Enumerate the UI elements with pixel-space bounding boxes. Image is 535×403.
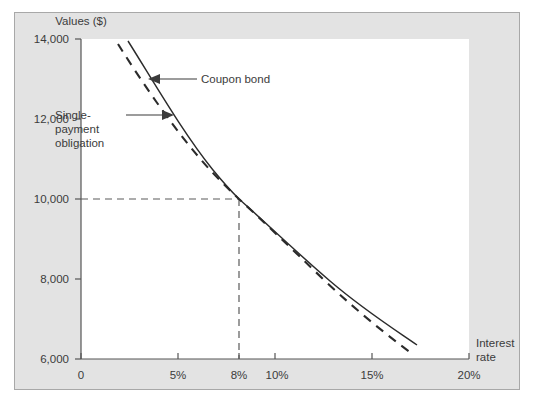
x-tick-label-10: 10% [265, 369, 288, 381]
interest-rate-value-chart: Coupon bond Single- payment obligation V… [15, 13, 521, 391]
x-tick-label-0: 0 [78, 369, 84, 381]
figure-frame: Coupon bond Single- payment obligation V… [14, 12, 520, 390]
x-tick-label-5: 5% [170, 369, 187, 381]
y-tick-label-8000: 8,000 [40, 273, 69, 285]
screenshot-root: Coupon bond Single- payment obligation V… [0, 0, 535, 403]
x-tick-label-15: 15% [360, 369, 383, 381]
y-axis-title: Values ($) [55, 15, 107, 27]
y-tick-label-6000: 6,000 [40, 353, 69, 365]
y-tick-label-10000: 10,000 [34, 193, 69, 205]
coupon-bond-label: Coupon bond [201, 73, 270, 85]
y-tick-label-14000: 14,000 [34, 33, 69, 45]
single-payment-label-line3: obligation [55, 137, 104, 149]
x-tick-label-8: 8% [231, 369, 248, 381]
x-axis-title-line1: Interest [476, 337, 515, 349]
plot-area-background [81, 39, 469, 359]
x-axis-title-line2: rate [476, 351, 496, 363]
y-tick-label-12000: 12,000 [34, 113, 69, 125]
x-tick-label-20: 20% [457, 369, 480, 381]
